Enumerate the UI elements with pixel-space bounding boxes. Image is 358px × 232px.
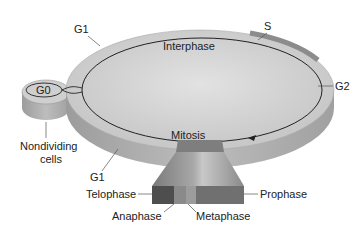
cell-cycle-diagram: G1 S G2 G0 Interphase Mitosis Nondividin… <box>0 0 358 232</box>
label-mitosis: Mitosis <box>171 129 206 141</box>
label-g0: G0 <box>36 84 51 96</box>
label-g1-top: G1 <box>74 23 89 35</box>
label-anaphase: Anaphase <box>112 210 162 222</box>
label-telophase: Telophase <box>86 188 136 200</box>
label-g1-bottom: G1 <box>90 171 105 183</box>
label-interphase: Interphase <box>163 40 215 52</box>
label-s: S <box>264 20 271 32</box>
label-prophase: Prophase <box>260 188 307 200</box>
label-metaphase: Metaphase <box>196 210 250 222</box>
label-g2: G2 <box>335 80 350 92</box>
label-nondividing-cells: cells <box>40 153 63 165</box>
label-nondividing: Nondividing <box>20 140 77 152</box>
